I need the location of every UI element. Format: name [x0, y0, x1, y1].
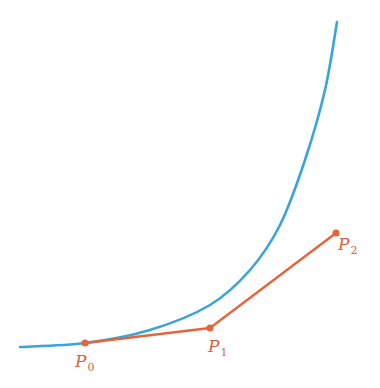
label-p0: P0: [74, 351, 94, 374]
control-point-p0: [81, 339, 88, 346]
blue-curve: [20, 22, 337, 347]
label-p1: P1: [207, 336, 227, 359]
label-p2: P2: [337, 234, 357, 257]
control-point-p1: [206, 324, 213, 331]
bezier-diagram: P0P1P2: [0, 0, 380, 388]
